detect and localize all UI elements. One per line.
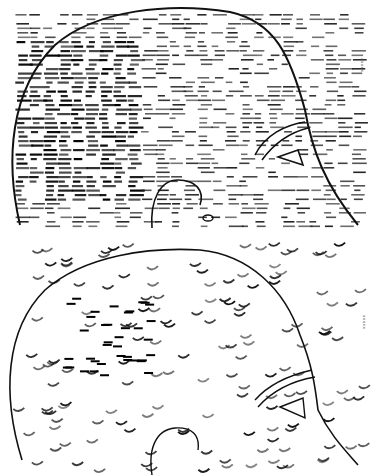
ear-outline [151,428,198,475]
figure: xxxxx xxxxx [0,0,375,475]
head-outline [12,8,358,225]
corner-text-top: xxxxx [360,58,365,72]
bottom-panel-head-map [0,235,375,475]
arc-marks [13,243,370,473]
corner-text-bottom: xxxxx [362,315,367,329]
dash-marks [15,14,368,227]
eye-outline [255,122,308,165]
top-panel-head-map [0,0,375,235]
